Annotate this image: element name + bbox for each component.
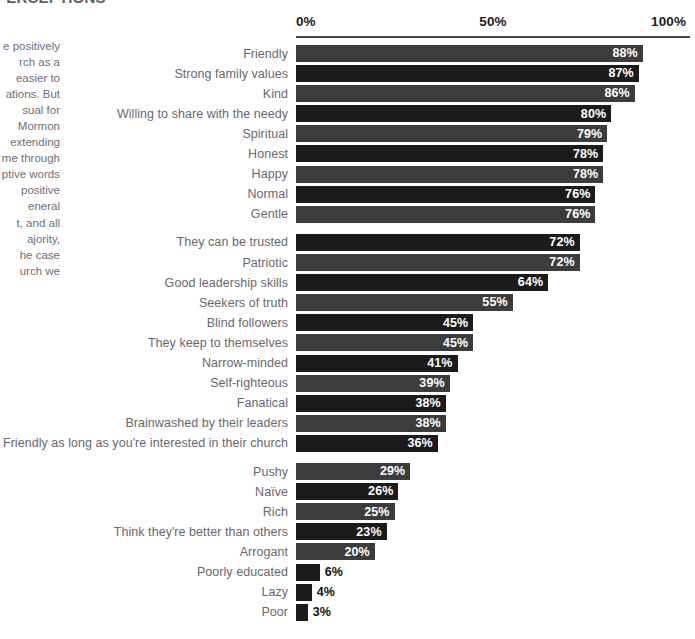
category-label: Pushy [253, 465, 288, 479]
bar-row: 64% [296, 274, 690, 291]
bar-row: 38% [296, 395, 690, 412]
bar-value-label: 78% [573, 168, 603, 181]
bar-value-label: 38% [415, 417, 445, 430]
category-label: Strong family values [174, 67, 288, 81]
bar-row: 87% [296, 65, 690, 82]
category-label: Friendly [243, 47, 288, 61]
bar-row: 72% [296, 254, 690, 271]
bar-value-label: 6% [320, 566, 343, 579]
bar-value-label: 76% [565, 208, 595, 221]
bar: 64% [296, 274, 548, 291]
bar-value-label: 55% [482, 296, 512, 309]
category-label: Patriotic [242, 256, 288, 270]
axis-tick-0: 0% [296, 14, 316, 29]
bar-row: 41% [296, 355, 690, 372]
bar: 78% [296, 166, 603, 183]
category-label-column: FriendlyStrong family valuesKindWilling … [0, 45, 288, 624]
category-label: Poorly educated [197, 565, 288, 579]
bar-value-label: 79% [577, 128, 607, 141]
category-label-row: Narrow-minded [0, 355, 288, 372]
bar-value-label: 4% [312, 586, 335, 599]
bar-row: 86% [296, 85, 690, 102]
bar: 78% [296, 145, 603, 162]
bar-row: 38% [296, 415, 690, 432]
bar: 79% [296, 125, 607, 142]
category-label: Narrow-minded [202, 356, 288, 370]
category-label-row: Honest [0, 145, 288, 162]
bar: 4% [296, 584, 312, 601]
bar: 3% [296, 604, 308, 621]
axis-rule [296, 36, 690, 38]
category-label-row: Strong family values [0, 65, 288, 82]
bar-value-label: 80% [581, 108, 611, 121]
category-label-row: Poor [0, 604, 288, 621]
category-label-row: Blind followers [0, 314, 288, 331]
chart-axis: 0% 50% 100% [296, 14, 690, 38]
bar-row: 78% [296, 145, 690, 162]
axis-tick-100: 100% [651, 14, 686, 29]
bar-value-label: 76% [565, 188, 595, 201]
bar-row: 29% [296, 463, 690, 480]
bar: 88% [296, 45, 643, 62]
bar: 36% [296, 435, 438, 452]
bar: 72% [296, 254, 580, 271]
bar-value-label: 88% [612, 47, 642, 60]
bar-row: 25% [296, 503, 690, 520]
bar-row: 80% [296, 105, 690, 122]
bar-row: 23% [296, 523, 690, 540]
category-label: Brainwashed by their leaders [125, 416, 288, 430]
category-label: Think they're better than others [114, 525, 288, 539]
bar-value-label: 78% [573, 148, 603, 161]
category-label-row: Good leadership skills [0, 274, 288, 291]
category-label-row: Think they're better than others [0, 523, 288, 540]
category-label: They can be trusted [177, 235, 288, 249]
bar: 80% [296, 105, 611, 122]
bar-value-label: 45% [443, 317, 473, 330]
bar-row: 20% [296, 543, 690, 560]
bar: 45% [296, 314, 473, 331]
category-label-row: Pushy [0, 463, 288, 480]
category-label: They keep to themselves [148, 336, 288, 350]
category-label: Poor [261, 605, 288, 619]
bar-value-label: 41% [427, 357, 457, 370]
bar-row: 76% [296, 186, 690, 203]
bar-value-label: 26% [368, 485, 398, 498]
category-label: Naïve [255, 485, 288, 499]
category-label: Fanatical [237, 396, 288, 410]
bar-value-label: 25% [364, 506, 394, 519]
bar: 86% [296, 85, 635, 102]
category-label-row: Naïve [0, 483, 288, 500]
category-label-row: Brainwashed by their leaders [0, 415, 288, 432]
bar-row: 78% [296, 166, 690, 183]
category-label-row: Spiritual [0, 125, 288, 142]
bar-value-label: 87% [608, 67, 638, 80]
bar-row: 45% [296, 314, 690, 331]
clipped-page-heading: PERCEPTIONS [0, 0, 106, 6]
category-label-row: Arrogant [0, 543, 288, 560]
bar-value-label: 72% [549, 256, 579, 269]
category-label-row: Self-righteous [0, 375, 288, 392]
category-label: Lazy [261, 585, 288, 599]
category-label: Rich [263, 505, 288, 519]
category-label-row: Patriotic [0, 254, 288, 271]
bar-row: 39% [296, 375, 690, 392]
bar: 23% [296, 523, 387, 540]
category-label-row: Lazy [0, 584, 288, 601]
category-label-row: Poorly educated [0, 564, 288, 581]
bar-row: 88% [296, 45, 690, 62]
chart-plot-area: 88%87%86%80%79%78%78%76%76%72%72%64%55%4… [296, 45, 690, 621]
category-label-row: Fanatical [0, 395, 288, 412]
bar-row: 55% [296, 294, 690, 311]
category-label-row: Friendly as long as you're interested in… [0, 435, 288, 452]
bar-value-label: 45% [443, 337, 473, 350]
bar-value-label: 23% [356, 526, 386, 539]
bar-row: 4% [296, 584, 690, 601]
bar: 26% [296, 483, 398, 500]
category-label-row: Willing to share with the needy [0, 105, 288, 122]
bar: 45% [296, 334, 473, 351]
axis-tick-50: 50% [479, 14, 506, 29]
category-label: Blind followers [207, 316, 288, 330]
bar-row: 72% [296, 234, 690, 251]
category-label: Friendly as long as you're interested in… [3, 436, 288, 450]
bar-row: 26% [296, 483, 690, 500]
